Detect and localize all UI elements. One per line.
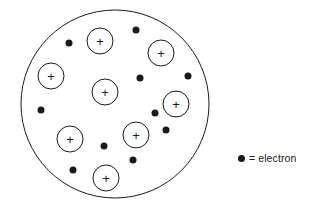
electron-10 — [152, 110, 159, 117]
proton-6-charge-symbol: + — [66, 132, 74, 147]
proton-2: + — [148, 40, 174, 66]
electron-layer — [38, 27, 192, 174]
electron-8 — [70, 167, 77, 174]
proton-5-charge-symbol: + — [172, 97, 180, 112]
legend-label: = electron — [249, 152, 296, 164]
electron-6 — [163, 127, 170, 134]
proton-7-charge-symbol: + — [132, 128, 140, 143]
proton-7: + — [123, 122, 149, 148]
electron-3 — [137, 75, 144, 82]
electron-7 — [130, 157, 137, 164]
proton-2-charge-symbol: + — [157, 46, 165, 61]
proton-1-charge-symbol: + — [96, 34, 104, 49]
legend: = electron — [238, 152, 296, 164]
proton-8: + — [93, 165, 119, 191]
electron-dot-icon — [238, 155, 245, 162]
proton-8-charge-symbol: + — [102, 171, 110, 186]
electron-5 — [38, 107, 45, 114]
atom-diagram-canvas: ++++++++ — [0, 0, 320, 207]
atom-diagram: ++++++++ = electron — [0, 0, 320, 207]
proton-4-charge-symbol: + — [101, 85, 109, 100]
atom-boundary-circle — [21, 10, 209, 198]
electron-4 — [185, 73, 192, 80]
proton-3: + — [38, 63, 64, 89]
proton-1: + — [87, 28, 113, 54]
atom-boundary-layer — [21, 10, 209, 198]
proton-5: + — [163, 91, 189, 117]
electron-9 — [101, 143, 108, 150]
proton-4: + — [92, 79, 118, 105]
proton-3-charge-symbol: + — [47, 69, 55, 84]
proton-6: + — [57, 126, 83, 152]
electron-2 — [133, 27, 140, 34]
electron-1 — [66, 40, 73, 47]
proton-layer: ++++++++ — [38, 28, 189, 191]
